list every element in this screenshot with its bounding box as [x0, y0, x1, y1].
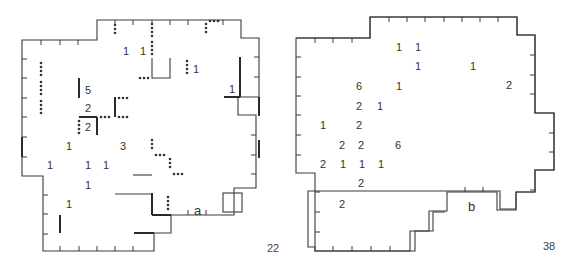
panel-a-number: 22: [267, 242, 279, 254]
count-cell: 2: [356, 119, 362, 131]
count-cell: 3: [120, 140, 126, 152]
count-cell: 2: [358, 139, 364, 151]
panel-b-label: b: [468, 199, 475, 214]
count-cell: 1: [140, 45, 146, 57]
count-cell: 2: [339, 198, 345, 210]
count-cell: 1: [66, 198, 72, 210]
count-cell: 1: [193, 63, 199, 75]
panel-b-outline: [296, 17, 554, 251]
count-cell: 1: [47, 159, 53, 171]
count-cell: 1: [396, 80, 402, 92]
count-cell: 2: [506, 79, 512, 91]
panel-b-number: 38: [543, 240, 555, 252]
count-cell: 2: [85, 102, 91, 114]
count-cell: 1: [377, 100, 383, 112]
panel-a-counts: 1 1 1 5 1 2 2 1 3 1 1 1 1 1: [47, 45, 235, 210]
panel-a-label: a: [194, 203, 202, 218]
count-cell: 2: [339, 139, 345, 151]
count-cell: 1: [123, 45, 129, 57]
count-cell: 1: [85, 179, 91, 191]
count-cell: 1: [340, 158, 346, 170]
panel-a-notch-square: [223, 193, 242, 212]
count-cell: 1: [396, 41, 402, 53]
count-cell: 2: [85, 121, 91, 133]
count-cell: 1: [103, 159, 109, 171]
count-cell: 2: [358, 177, 364, 189]
count-cell: 1: [85, 159, 91, 171]
panel-a-dotted-boundaries: [40, 20, 220, 211]
count-cell: 1: [415, 60, 421, 72]
figure-canvas: 1 1 1 5 1 2 2 1 3 1 1 1 1 1 1 1 1 1 6 1 …: [0, 0, 576, 271]
panel-b-outline-main: [296, 17, 554, 251]
count-cell: 1: [470, 60, 476, 72]
count-cell: 1: [320, 119, 326, 131]
count-cell: 1: [66, 140, 72, 152]
count-cell: 2: [320, 158, 326, 170]
count-cell: 6: [356, 80, 362, 92]
count-cell: 1: [378, 158, 384, 170]
count-cell: 1: [229, 83, 235, 95]
count-cell: 1: [359, 158, 365, 170]
count-cell: 6: [395, 139, 401, 151]
count-cell: 2: [356, 100, 362, 112]
panel-b-counts: 1 1 1 1 6 1 2 2 1 1 2 2 2 6 2 1 1 1 2 2: [320, 41, 512, 210]
count-cell: 5: [85, 84, 91, 96]
count-cell: 1: [415, 41, 421, 53]
